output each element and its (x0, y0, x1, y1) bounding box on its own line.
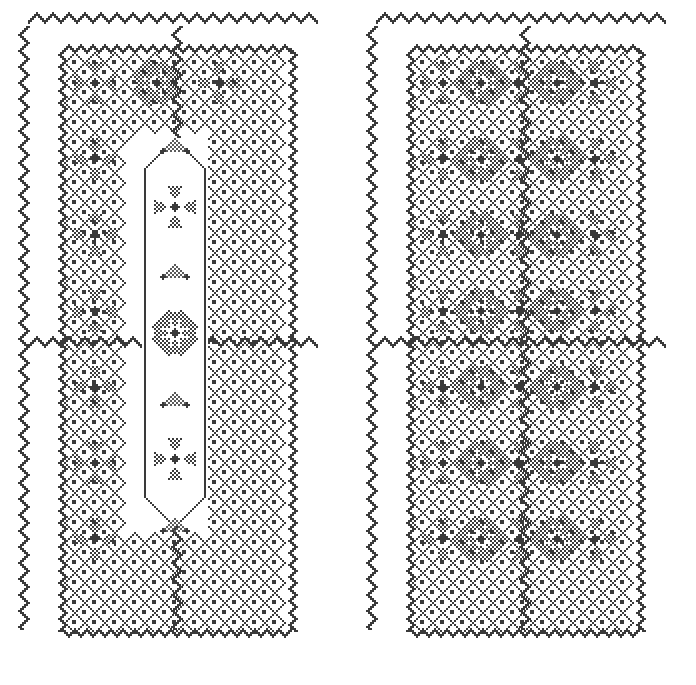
cross-stitch-pattern-canvas (0, 0, 696, 685)
pattern-stage: Two monochrome cross-stitch embroidery p… (0, 0, 696, 685)
